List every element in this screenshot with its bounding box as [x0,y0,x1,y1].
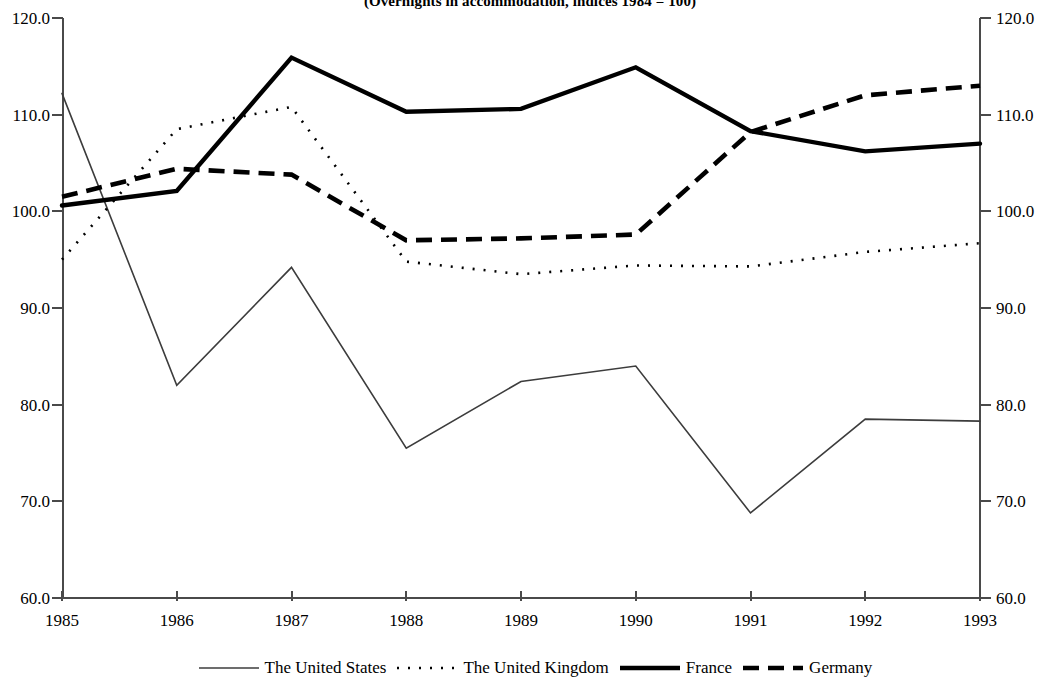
legend-item[interactable]: France [609,659,732,676]
legend-swatch-thick-dashed-icon [742,661,804,675]
y-axis-label-right: 110.0 [996,107,1034,124]
chart-legend: The United StatesThe United KingdomFranc… [0,659,1060,676]
y-axis-label-left: 120.0 [12,10,50,27]
y-axis-label-right: 100.0 [996,203,1034,220]
x-axis-label: 1988 [389,612,423,629]
y-tick-right [980,114,991,116]
y-axis-label-left: 90.0 [20,300,50,317]
y-axis-label-right: 60.0 [996,590,1026,607]
x-axis-label: 1991 [734,612,768,629]
y-axis-label-left: 100.0 [12,203,50,220]
legend-label: The United States [265,659,387,676]
x-axis-label: 1993 [963,612,997,629]
legend-swatch-dotted-icon [396,661,458,675]
chart-title: (Overnights in accommodation, indices 19… [0,0,1060,9]
legend-item[interactable]: Germany [732,659,872,676]
legend-label: The United Kingdom [463,659,608,676]
y-tick-right [980,500,991,502]
x-axis-label: 1985 [45,612,79,629]
series-lines [62,18,980,598]
y-tick-right [980,307,991,309]
x-axis-label: 1986 [160,612,194,629]
y-tick-right [980,597,991,599]
y-axis-label-left: 60.0 [20,590,50,607]
plot-area [62,18,980,598]
y-axis-label-right: 90.0 [996,300,1026,317]
legend-label: Germany [809,659,872,676]
legend-label: France [686,659,732,676]
legend-item[interactable]: The United Kingdom [386,659,608,676]
y-axis-label-left: 70.0 [20,493,50,510]
chart-page: (Overnights in accommodation, indices 19… [0,0,1060,691]
series-line [62,93,980,513]
x-axis-label: 1992 [848,612,882,629]
x-axis-label: 1989 [504,612,538,629]
y-tick-right [980,404,991,406]
x-axis-label: 1990 [619,612,653,629]
legend-item[interactable]: The United States [188,659,387,676]
x-axis-label: 1987 [275,612,309,629]
y-tick-right [980,210,991,212]
series-line [62,58,980,206]
y-axis-label-right: 120.0 [996,10,1034,27]
y-axis-label-left: 80.0 [20,397,50,414]
legend-swatch-thin-solid-icon [198,661,260,675]
y-axis-label-right: 80.0 [996,397,1026,414]
y-axis-label-right: 70.0 [996,493,1026,510]
y-axis-label-left: 110.0 [12,107,50,124]
y-tick-right [980,17,991,19]
legend-swatch-thick-solid-icon [619,661,681,675]
series-line [62,107,980,274]
